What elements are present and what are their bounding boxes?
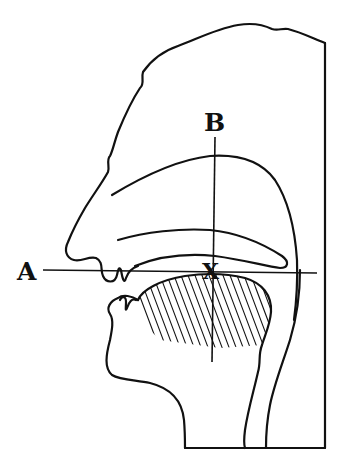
lower-teeth: [120, 297, 136, 309]
head-profile-outline: [66, 24, 325, 281]
pharynx-wall: [266, 270, 300, 448]
axis-a-label: A: [17, 259, 36, 284]
vocal-tract-diagram: [0, 0, 342, 463]
lower-lip-chin-outline: [107, 296, 186, 448]
intersection-x-label: X: [202, 260, 219, 282]
axis-b-label: B: [204, 110, 225, 135]
axis-a-line: [43, 270, 317, 273]
